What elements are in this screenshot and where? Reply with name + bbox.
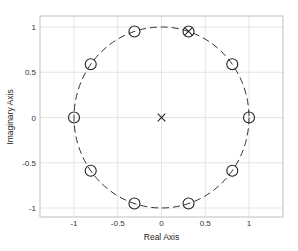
- x-tick-label: -1: [70, 219, 78, 228]
- x-axis-label: Real Axis: [144, 232, 179, 242]
- pole-zero-plot: -1-0.500.51 -1-0.500.51 Real Axis Imagin…: [0, 0, 298, 251]
- x-tick-label: 1: [247, 219, 252, 228]
- x-tick-label: -0.5: [111, 219, 125, 228]
- x-tick-labels: -1-0.500.51: [70, 219, 251, 228]
- y-tick-labels: -1-0.500.51: [22, 23, 36, 213]
- y-tick-label: -0.5: [22, 159, 36, 168]
- pole-marker: [185, 28, 193, 36]
- y-axis-label: Imaginary Axis: [5, 89, 15, 144]
- x-tick-label: 0.5: [200, 219, 212, 228]
- gridlines: [40, 16, 283, 217]
- y-tick-label: 1: [32, 23, 37, 32]
- y-tick-label: -1: [29, 204, 37, 213]
- y-tick-label: 0.5: [25, 68, 37, 77]
- y-tick-label: 0: [32, 114, 37, 123]
- x-tick-label: 0: [159, 219, 164, 228]
